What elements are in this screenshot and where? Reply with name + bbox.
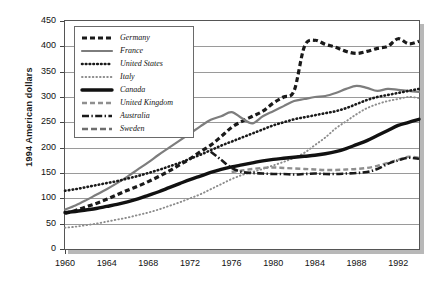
y-tick-mark: [60, 224, 64, 225]
y-tick-label: 200: [24, 142, 56, 152]
legend-item-italy[interactable]: Italy: [75, 70, 193, 83]
chart-legend: GermanyFranceUnited StatesItalyCanadaUni…: [74, 26, 194, 138]
y-tick-label: 250: [24, 116, 56, 126]
legend-swatch-icon: [81, 111, 113, 121]
y-tick-label: 150: [24, 167, 56, 177]
y-tick-label: 50: [24, 218, 56, 228]
chart-container: 1994 American dollars 050100150200250300…: [0, 0, 436, 284]
x-tick-label: 1972: [170, 258, 210, 268]
y-tick-label: 350: [24, 66, 56, 76]
legend-item-united-states[interactable]: United States: [75, 57, 193, 70]
legend-label: United Kingdom: [120, 98, 173, 107]
x-tick-label: 1984: [295, 258, 335, 268]
y-tick-mark: [60, 148, 64, 149]
legend-swatch-icon: [81, 124, 113, 134]
legend-label: Australia: [120, 111, 150, 120]
x-tick-label: 1968: [128, 258, 168, 268]
x-tick-label: 1964: [87, 258, 127, 268]
legend-swatch-icon: [81, 85, 113, 95]
legend-swatch-icon: [81, 59, 113, 69]
x-tick-label: 1980: [253, 258, 293, 268]
y-tick-label: 100: [24, 192, 56, 202]
y-tick-label: 300: [24, 91, 56, 101]
legend-item-germany[interactable]: Germany: [75, 31, 193, 44]
legend-item-sweden[interactable]: Sweden: [75, 122, 193, 135]
legend-swatch-icon: [81, 72, 113, 82]
legend-item-australia[interactable]: Australia: [75, 109, 193, 122]
legend-label: Italy: [120, 72, 135, 81]
legend-label: United States: [120, 59, 163, 68]
legend-label: Germany: [120, 33, 150, 42]
y-tick-mark: [60, 198, 64, 199]
y-tick-label: 450: [24, 15, 56, 25]
legend-item-united-kingdom[interactable]: United Kingdom: [75, 96, 193, 109]
y-tick-mark: [60, 46, 64, 47]
y-tick-mark: [60, 173, 64, 174]
x-tick-label: 1992: [378, 258, 418, 268]
y-tick-mark: [60, 21, 64, 22]
x-tick-label: 1976: [212, 258, 252, 268]
legend-swatch-icon: [81, 33, 113, 43]
y-tick-label: 400: [24, 40, 56, 50]
y-tick-mark: [60, 249, 64, 250]
legend-item-canada[interactable]: Canada: [75, 83, 193, 96]
y-tick-label: 0: [24, 243, 56, 253]
legend-label: Sweden: [120, 124, 144, 133]
legend-swatch-icon: [81, 46, 113, 56]
x-tick-label: 1988: [337, 258, 377, 268]
y-tick-mark: [60, 97, 64, 98]
legend-label: France: [120, 46, 143, 55]
legend-item-france[interactable]: France: [75, 44, 193, 57]
x-tick-label: 1960: [45, 258, 85, 268]
legend-label: Canada: [120, 85, 145, 94]
legend-swatch-icon: [81, 98, 113, 108]
y-tick-mark: [60, 122, 64, 123]
y-tick-mark: [60, 72, 64, 73]
